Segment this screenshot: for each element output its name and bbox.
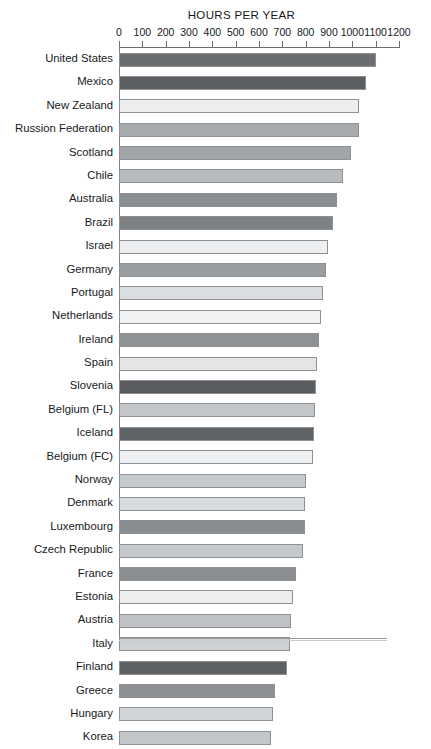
bar — [119, 216, 333, 230]
x-tick-label: 1000 — [341, 26, 364, 38]
bar — [119, 169, 343, 183]
x-tick-label: 700 — [274, 26, 292, 38]
x-tick-label: 1200 — [387, 26, 410, 38]
category-label: Greece — [0, 684, 113, 696]
x-tick-label: 600 — [250, 26, 268, 38]
category-label: Hungary — [0, 707, 113, 719]
category-label: Mexico — [0, 75, 113, 87]
bar-row: Belgium (FC) — [0, 447, 431, 470]
x-tick-label: 900 — [320, 26, 338, 38]
bar — [119, 76, 366, 90]
bar — [119, 380, 316, 394]
bar-rows: United StatesMexicoNew ZealandRussion Fe… — [0, 49, 431, 749]
bar-row: Slovenia — [0, 376, 431, 399]
bar — [119, 731, 271, 745]
bar-row: Finland — [0, 657, 431, 680]
category-label: Czech Republic — [0, 543, 113, 555]
bar — [119, 333, 319, 347]
bar — [119, 310, 321, 324]
category-label: Luxembourg — [0, 520, 113, 532]
x-tick-label: 200 — [157, 26, 175, 38]
bar — [119, 99, 359, 113]
bar-row: Korea — [0, 727, 431, 749]
bar — [119, 520, 305, 534]
bar-row: Luxembourg — [0, 517, 431, 540]
bar — [119, 450, 313, 464]
category-label: Brazil — [0, 216, 113, 228]
bar — [119, 53, 376, 67]
x-tick-label: 800 — [297, 26, 315, 38]
bar-row: Chile — [0, 166, 431, 189]
category-label: Estonia — [0, 590, 113, 602]
category-label: Korea — [0, 730, 113, 742]
category-label: Belgium (FC) — [0, 450, 113, 462]
bar — [119, 263, 326, 277]
x-tick-label: 500 — [227, 26, 245, 38]
bar — [119, 286, 323, 300]
bar-row: Portugal — [0, 283, 431, 306]
bar-row: Denmark — [0, 493, 431, 516]
bar-row: Iceland — [0, 423, 431, 446]
bar-row: Israel — [0, 236, 431, 259]
bar — [119, 474, 306, 488]
category-label: Scotland — [0, 146, 113, 158]
bar-row: Netherlands — [0, 306, 431, 329]
bar — [119, 193, 337, 207]
category-label: Netherlands — [0, 309, 113, 321]
bar-row: Scotland — [0, 143, 431, 166]
category-label: Germany — [0, 263, 113, 275]
category-label: Ireland — [0, 333, 113, 345]
bar — [119, 427, 314, 441]
bar-row: Estonia — [0, 587, 431, 610]
bar-row: Belgium (FL) — [0, 400, 431, 423]
x-axis-line — [119, 47, 399, 48]
category-label: Australia — [0, 192, 113, 204]
category-label: Chile — [0, 169, 113, 181]
chart-title-text: HOURS PER YEAR — [188, 9, 296, 21]
category-label: Slovenia — [0, 379, 113, 391]
bar-row: New Zealand — [0, 96, 431, 119]
bar-row: Hungary — [0, 704, 431, 727]
bar-row: Spain — [0, 353, 431, 376]
category-label: Belgium (FL) — [0, 403, 113, 415]
bar — [119, 614, 291, 628]
x-tick-label: 0 — [116, 26, 122, 38]
plot-baseline-shadow — [119, 640, 387, 641]
bar — [119, 661, 287, 675]
bar-row: Mexico — [0, 72, 431, 95]
bar-row: Germany — [0, 260, 431, 283]
category-label: Finland — [0, 660, 113, 672]
x-tick-label: 300 — [180, 26, 198, 38]
bar — [119, 146, 351, 160]
category-label: France — [0, 567, 113, 579]
x-tick-label: 1100 — [364, 26, 387, 38]
bar-row: United States — [0, 49, 431, 72]
category-label: Austria — [0, 613, 113, 625]
x-tick-mark — [399, 41, 400, 48]
bar-row: Norway — [0, 470, 431, 493]
bar — [119, 567, 296, 581]
category-label: New Zealand — [0, 99, 113, 111]
bar-row: Australia — [0, 189, 431, 212]
category-label: Italy — [0, 637, 113, 649]
plot-baseline — [119, 638, 387, 639]
x-tick-label: 100 — [134, 26, 152, 38]
bar-row: France — [0, 564, 431, 587]
chart-title: HOURS PER YEAR — [0, 9, 431, 21]
category-label: Portugal — [0, 286, 113, 298]
bar — [119, 707, 273, 721]
bar-row: Austria — [0, 610, 431, 633]
category-label: Denmark — [0, 496, 113, 508]
bar — [119, 357, 317, 371]
bar-row: Russion Federation — [0, 119, 431, 142]
bar — [119, 403, 315, 417]
category-label: Russion Federation — [0, 122, 113, 134]
category-label: Spain — [0, 356, 113, 368]
bar — [119, 544, 303, 558]
x-axis: 0100200300400500600700800900100011001200 — [0, 26, 431, 48]
category-label: Israel — [0, 239, 113, 251]
bar-row: Brazil — [0, 213, 431, 236]
x-tick-label: 400 — [204, 26, 222, 38]
bar — [119, 590, 293, 604]
